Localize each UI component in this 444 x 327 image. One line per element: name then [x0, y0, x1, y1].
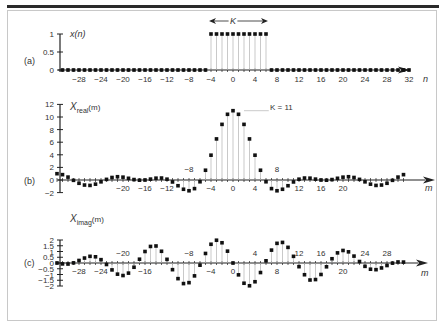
svg-text:−24: −24: [94, 267, 108, 276]
svg-text:0: 0: [50, 176, 55, 185]
svg-text:28: 28: [383, 75, 392, 84]
svg-text:4: 4: [253, 249, 258, 258]
svg-text:8: 8: [275, 75, 280, 84]
svg-text:4: 4: [253, 184, 258, 193]
svg-text:−28: −28: [72, 75, 86, 84]
svg-text:−12: −12: [160, 184, 174, 193]
svg-text:−4: −4: [206, 267, 216, 276]
svg-text:20: 20: [339, 75, 348, 84]
svg-text:−8: −8: [184, 249, 194, 258]
svg-text:0: 0: [231, 75, 236, 84]
svg-text:4: 4: [253, 75, 258, 84]
svg-text:16: 16: [317, 184, 326, 193]
svg-text:32: 32: [405, 75, 414, 84]
svg-text:−16: −16: [138, 267, 152, 276]
svg-text:12: 12: [295, 75, 304, 84]
svg-text:28: 28: [383, 249, 392, 258]
svg-text:12: 12: [45, 100, 54, 109]
svg-text:−8: −8: [184, 165, 194, 174]
pulse-width-label: K: [230, 16, 237, 26]
svg-text:1: 1: [50, 30, 55, 39]
svg-text:−4: −4: [206, 184, 216, 193]
svg-text:−16: −16: [138, 184, 152, 193]
svg-text:−28: −28: [72, 267, 86, 276]
panel-c-ylabel: Ximag(m): [69, 213, 104, 227]
panel-a-label: (a): [24, 56, 35, 66]
svg-text:0: 0: [231, 184, 236, 193]
svg-text:16: 16: [317, 249, 326, 258]
plot-layers: 00.51−28−24−20−16−12−8−4048121620242832−…: [38, 18, 435, 291]
svg-text:0: 0: [50, 66, 55, 75]
panel-a-xlabel: n: [423, 74, 428, 84]
figure-canvas: (a) (b) (c) x(n) n K Xreal(m) K = 11 m X…: [0, 0, 444, 327]
panel-b-ylabel: Xreal(m): [69, 101, 101, 114]
svg-text:2: 2: [50, 163, 55, 172]
svg-text:8: 8: [275, 267, 280, 276]
svg-text:24: 24: [361, 249, 370, 258]
svg-text:−4: −4: [206, 75, 216, 84]
svg-text:4: 4: [50, 151, 55, 160]
svg-text:12: 12: [295, 184, 304, 193]
svg-text:10: 10: [45, 113, 54, 122]
panel-a-ylabel: x(n): [69, 29, 86, 39]
panel-c-xlabel: m: [421, 268, 429, 278]
panel-b-xlabel: m: [425, 183, 433, 193]
svg-text:−16: −16: [138, 75, 152, 84]
svg-text:−2: −2: [45, 189, 55, 198]
svg-text:−20: −20: [116, 75, 130, 84]
svg-text:16: 16: [317, 75, 326, 84]
svg-text:2: 2: [50, 236, 55, 245]
svg-text:−12: −12: [160, 75, 174, 84]
svg-text:8: 8: [50, 126, 55, 135]
svg-text:−20: −20: [116, 249, 130, 258]
svg-text:−24: −24: [94, 75, 108, 84]
svg-text:0.5: 0.5: [43, 48, 55, 57]
svg-text:12: 12: [295, 249, 304, 258]
svg-text:0: 0: [231, 267, 236, 276]
panel-b-label: (b): [24, 176, 35, 186]
svg-text:−8: −8: [184, 75, 194, 84]
svg-text:20: 20: [339, 184, 348, 193]
svg-text:−20: −20: [116, 184, 130, 193]
svg-text:6: 6: [50, 138, 55, 147]
svg-text:8: 8: [275, 165, 280, 174]
k-annotation: K = 11: [270, 103, 293, 112]
panel-c-label: (c): [24, 258, 35, 268]
svg-text:20: 20: [339, 267, 348, 276]
svg-text:24: 24: [361, 75, 370, 84]
